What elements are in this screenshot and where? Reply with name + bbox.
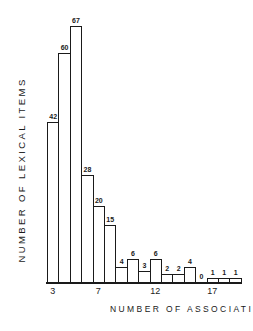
- x-tick-label: 3: [43, 286, 63, 296]
- x-axis-line: [46, 282, 242, 284]
- bar-value-label: 4: [183, 258, 197, 265]
- bar-value-label: 15: [103, 216, 117, 223]
- y-axis-label: NUMBER OF LEXICAL ITEMS: [16, 77, 27, 262]
- x-axis-label: NUMBER OF ASSOCIATIONS: [110, 304, 253, 314]
- x-tick-label: 12: [145, 286, 165, 296]
- bar-value-label: 28: [80, 166, 94, 173]
- histogram-chart: 42606728201546362240111 371217 NUMBER OF…: [0, 0, 253, 331]
- x-tick-label: 17: [202, 286, 222, 296]
- x-tick-label: 7: [88, 286, 108, 296]
- bar-value-label: 1: [229, 269, 243, 276]
- bar-value-label: 6: [126, 250, 140, 257]
- bar-value-label: 20: [92, 197, 106, 204]
- bar-value-label: 67: [69, 17, 83, 24]
- bar-value-label: 6: [149, 250, 163, 257]
